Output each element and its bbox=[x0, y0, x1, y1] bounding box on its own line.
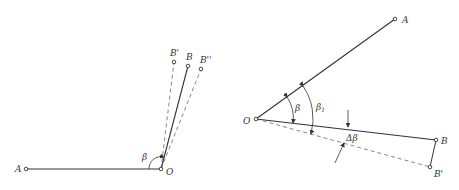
line-BB-prime bbox=[430, 140, 436, 167]
dashed-line-OB-prime bbox=[256, 119, 430, 167]
line-OB bbox=[161, 66, 188, 169]
label-A: A bbox=[401, 15, 409, 25]
point-B-prime-icon bbox=[428, 165, 432, 169]
label-B: B bbox=[440, 136, 448, 146]
label-delta-beta: Δβ bbox=[345, 133, 358, 143]
point-A-icon bbox=[24, 167, 28, 171]
point-B-icon bbox=[186, 64, 190, 68]
diagram-canvas: A O B B' B'' β O A B B' β β1 Δβ bbox=[0, 0, 459, 190]
right-figure: O A B B' β β1 Δβ bbox=[243, 15, 448, 179]
point-O-icon bbox=[254, 117, 258, 121]
label-B-prime: B' bbox=[433, 169, 443, 179]
label-beta: β bbox=[141, 152, 147, 162]
label-B: B bbox=[185, 52, 193, 62]
label-O: O bbox=[166, 167, 174, 177]
point-B-icon bbox=[434, 138, 438, 142]
point-O-icon bbox=[159, 167, 163, 171]
left-figure: A O B B' B'' β bbox=[14, 48, 212, 177]
label-beta1: β1 bbox=[315, 102, 325, 113]
label-B-double-prime: B'' bbox=[199, 55, 212, 65]
point-A-icon bbox=[393, 17, 397, 21]
point-B-double-prime-icon bbox=[199, 67, 203, 71]
beta-arc bbox=[287, 97, 293, 123]
beta1-arc bbox=[303, 86, 313, 134]
line-OA bbox=[256, 19, 395, 119]
label-A: A bbox=[14, 164, 22, 174]
delta-beta-arrow-bottom bbox=[335, 143, 344, 163]
label-beta: β bbox=[294, 103, 300, 113]
point-B-prime-icon bbox=[172, 60, 176, 64]
label-O: O bbox=[243, 116, 251, 126]
label-B-prime: B' bbox=[169, 48, 179, 58]
